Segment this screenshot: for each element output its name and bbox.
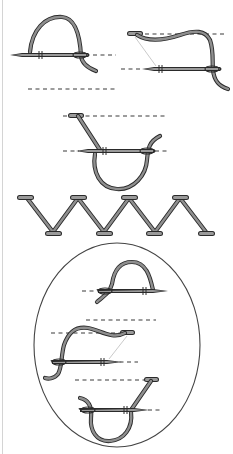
lower-tacks [45,231,215,236]
thread-shadow [109,336,127,359]
detail-circle [34,243,200,447]
needle-icon [76,147,156,155]
step-1-illustration [10,17,116,89]
detail-step-a [82,262,168,320]
detail-step-c [75,377,161,441]
needle-icon [79,406,150,414]
herringbone-zigzag-row [17,195,215,236]
detail-step-b [45,328,138,379]
needle-icon [97,287,169,295]
step-2-illustration [121,31,228,89]
step-3-illustration [63,113,167,189]
herringbone-stitch-diagram [0,0,233,454]
needle-icon [142,65,222,73]
upper-tacks [17,195,189,200]
needle-icon [51,358,123,366]
needle-icon [10,51,90,59]
